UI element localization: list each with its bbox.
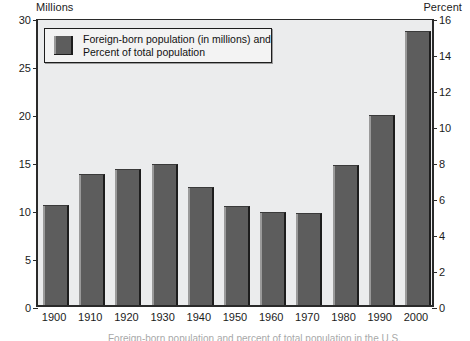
bar-1980 (333, 165, 359, 305)
right-tick-16 (432, 20, 437, 21)
left-tick-label-10: 10 (19, 207, 31, 218)
legend-label-line1: Foreign-born population (in millions) an… (83, 33, 271, 46)
bar-1940 (188, 187, 214, 305)
legend-swatch-foreign-born (54, 36, 73, 55)
x-axis-label-1980: 1980 (324, 311, 364, 323)
bar-chart: Millions Percent 051015202530 0246810121… (0, 0, 470, 341)
x-axis-label-1950: 1950 (215, 311, 255, 323)
left-tick-label-20: 20 (19, 111, 31, 122)
right-tick-4 (432, 236, 437, 237)
x-axis-label-1910: 1910 (70, 311, 110, 323)
right-tick-10 (432, 128, 437, 129)
bar-1960 (260, 212, 286, 305)
bar-1900 (43, 205, 69, 305)
right-tick-2 (432, 272, 437, 273)
legend-label: Foreign-born population (in millions) an… (83, 33, 271, 58)
right-tick-8 (432, 164, 437, 165)
x-axis-label-1990: 1990 (360, 311, 400, 323)
x-axis-label-1900: 1900 (34, 311, 74, 323)
right-tick-6 (432, 200, 437, 201)
right-axis-title: Percent (423, 1, 462, 13)
bar-1920 (115, 169, 141, 305)
x-axis-label-1970: 1970 (287, 311, 327, 323)
chart-legend: Foreign-born population (in millions) an… (44, 28, 272, 63)
right-tick-12 (432, 92, 437, 93)
legend-label-line2: Percent of total population (83, 46, 271, 59)
x-axis-label-1930: 1930 (143, 311, 183, 323)
left-tick-label-15: 15 (19, 159, 31, 170)
x-axis-label-1940: 1940 (179, 311, 219, 323)
bar-1970 (296, 213, 322, 305)
right-tick-label-14: 14 (439, 51, 451, 62)
right-tick-label-6: 6 (439, 195, 445, 206)
right-tick-0 (432, 308, 437, 309)
left-axis-title: Millions (36, 1, 73, 13)
left-tick-label-30: 30 (19, 15, 31, 26)
x-axis-label-1960: 1960 (251, 311, 291, 323)
bar-1990 (369, 115, 395, 305)
bar-1950 (224, 206, 250, 305)
left-tick-label-25: 25 (19, 63, 31, 74)
right-tick-label-4: 4 (439, 231, 445, 242)
left-tick-0 (33, 308, 38, 309)
left-tick-label-0: 0 (25, 303, 31, 314)
right-tick-label-10: 10 (439, 123, 451, 134)
right-tick-label-12: 12 (439, 87, 451, 98)
right-tick-label-16: 16 (439, 15, 451, 26)
bar-1910 (79, 174, 105, 305)
bar-1930 (152, 164, 178, 305)
right-tick-14 (432, 56, 437, 57)
figure-caption: Foreign-born population and percent of t… (108, 333, 468, 341)
right-tick-label-8: 8 (439, 159, 445, 170)
bar-2000 (405, 31, 431, 305)
right-tick-label-2: 2 (439, 267, 445, 278)
x-axis-label-2000: 2000 (396, 311, 436, 323)
x-axis-label-1920: 1920 (106, 311, 146, 323)
right-tick-label-0: 0 (439, 303, 445, 314)
left-tick-label-5: 5 (25, 255, 31, 266)
